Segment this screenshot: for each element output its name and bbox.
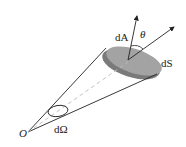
direction-arrow (128, 27, 174, 60)
cone-axis (28, 62, 128, 132)
label-theta: θ (140, 29, 145, 40)
label-origin: O (19, 128, 27, 139)
label-area-element: dA (115, 32, 128, 43)
cone-upper-edge (28, 48, 106, 132)
cone-lower-edge (28, 74, 157, 132)
solid-angle-diagram: O dΩ dA dS θ (0, 0, 186, 147)
label-solid-angle: dΩ (54, 124, 68, 135)
label-surface-element: dS (161, 58, 173, 69)
diagram-graphic (0, 0, 186, 147)
